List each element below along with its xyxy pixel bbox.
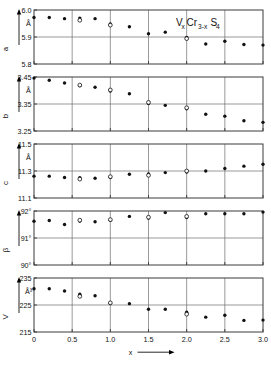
data-point-filled [93, 86, 96, 89]
x-axis-arrow-head [169, 350, 175, 355]
data-point-filled [128, 92, 131, 95]
data-point-open [185, 215, 189, 219]
multi-panel-scatter-plot: 6.05.95.8Åa3.453.353.25Åb11.511.311.1Åc9… [0, 0, 271, 374]
y-unit-label: Å [26, 153, 31, 162]
data-point-filled [261, 318, 264, 321]
panel-a: 6.05.95.8Åa [1, 6, 265, 69]
data-point-filled [223, 167, 226, 170]
y-tick-label: 11.1 [18, 194, 31, 203]
data-point-filled [261, 43, 264, 46]
data-point-filled [204, 315, 207, 318]
y-tick-label: 235 [20, 274, 32, 283]
data-point-filled [204, 113, 207, 116]
x-tick-label: 0.5 [67, 335, 77, 344]
y-axis-name: V [1, 314, 10, 320]
panel-beta: 92°91°90°β [1, 207, 265, 270]
data-point-filled [164, 30, 167, 33]
y-tick-label: 5.8 [22, 60, 32, 69]
data-point-filled [164, 308, 167, 311]
data-point-filled [164, 171, 167, 174]
data-point-filled [32, 174, 35, 177]
y-unit-label: Å³ [25, 287, 33, 296]
data-point-open [108, 301, 112, 305]
data-point-open [108, 23, 112, 27]
data-point-open [108, 175, 112, 179]
data-point-filled [128, 302, 131, 305]
y-tick-label: 92° [21, 207, 32, 216]
y-axis-name: b [1, 113, 10, 118]
data-point-open [185, 37, 189, 41]
data-point-filled [242, 212, 245, 215]
data-point-filled [32, 76, 35, 79]
data-point-filled [147, 308, 150, 311]
data-point-filled [128, 215, 131, 218]
panel-b: 3.453.353.25Åb [1, 73, 265, 136]
y-axis-name: β [1, 247, 10, 252]
data-point-filled [63, 176, 66, 179]
data-point-filled [223, 40, 226, 43]
x-tick-label: 3.0 [258, 335, 268, 344]
data-point-filled [48, 16, 51, 19]
title-segment: Cr [187, 17, 198, 28]
data-point-filled [63, 17, 66, 20]
y-tick-label: 11.3 [18, 167, 31, 176]
title-segment: 4 [216, 23, 220, 30]
data-point-filled [32, 16, 35, 19]
data-point-filled [48, 174, 51, 177]
data-point-filled [204, 212, 207, 215]
x-tick-label: 1.0 [105, 335, 115, 344]
data-point-filled [93, 220, 96, 223]
data-point-filled [93, 177, 96, 180]
data-point-open [147, 100, 151, 104]
data-point-open [108, 218, 112, 222]
x-tick-label: 2.5 [220, 335, 230, 344]
data-point-open [108, 88, 112, 92]
data-point-filled [242, 164, 245, 167]
data-point-open [78, 18, 82, 22]
data-point-filled [32, 287, 35, 290]
data-point-filled [261, 210, 264, 213]
title-segment: 3-x [198, 23, 208, 30]
data-point-filled [242, 319, 245, 322]
y-tick-label: 5.9 [22, 33, 32, 42]
panel-c: 11.511.311.1Åc [1, 140, 265, 203]
data-point-open [147, 215, 151, 219]
data-point-open [78, 177, 82, 181]
data-point-filled [204, 169, 207, 172]
data-point-open [147, 173, 151, 177]
data-point-filled [63, 223, 66, 226]
title-segment: x [182, 23, 186, 30]
x-tick-label: 1.5 [144, 335, 154, 344]
y-tick-label: 3.25 [18, 127, 32, 136]
data-point-open [78, 294, 82, 298]
data-point-open [185, 169, 189, 173]
data-point-filled [128, 173, 131, 176]
y-tick-label: 3.35 [18, 100, 32, 109]
data-point-filled [48, 287, 51, 290]
data-point-filled [128, 25, 131, 28]
data-point-filled [48, 219, 51, 222]
data-point-filled [48, 79, 51, 82]
data-point-filled [93, 17, 96, 20]
x-axis-name: x [129, 348, 133, 357]
y-axis-name: a [1, 46, 10, 51]
y-unit-label: Å [26, 86, 31, 95]
y-tick-label: 6.0 [22, 6, 32, 15]
data-point-filled [63, 289, 66, 292]
x-tick-label: 0 [32, 335, 36, 344]
y-tick-label: 90° [21, 261, 32, 270]
x-tick-label: 2.0 [182, 335, 192, 344]
data-point-open [78, 218, 82, 222]
y-unit-label: Å [26, 19, 31, 28]
data-point-filled [164, 104, 167, 107]
data-point-filled [204, 42, 207, 45]
figure-title: VxCr3-xS4 [176, 17, 220, 30]
data-point-filled [223, 114, 226, 117]
data-point-filled [242, 43, 245, 46]
data-point-filled [63, 81, 66, 84]
y-tick-label: 215 [20, 328, 32, 337]
panel-V: 235225215Å³V [1, 274, 265, 337]
data-point-filled [32, 220, 35, 223]
data-point-filled [93, 294, 96, 297]
data-point-filled [164, 211, 167, 214]
